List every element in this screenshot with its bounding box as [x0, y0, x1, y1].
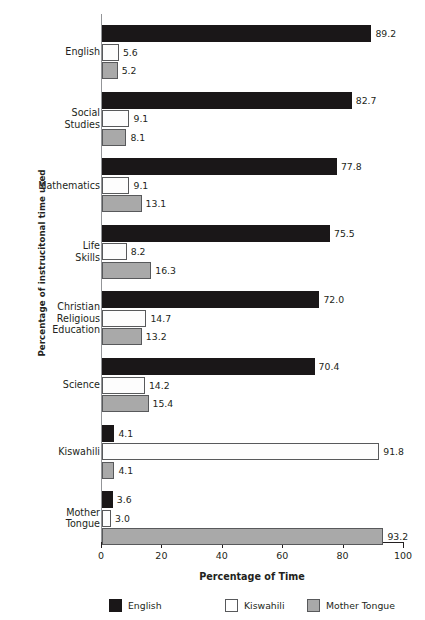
category-label-line: Christian: [4, 301, 100, 312]
bar: [102, 491, 113, 508]
bar: [102, 129, 126, 146]
category-label-line: Skills: [4, 252, 100, 263]
x-tick-label: 0: [98, 550, 104, 561]
bar-value-label: 4.1: [118, 462, 133, 479]
bar: [102, 443, 379, 460]
x-tick-label: 20: [155, 550, 167, 561]
bar: [102, 528, 383, 545]
category-label-line: Life: [4, 240, 100, 251]
category-label: SocialStudies: [4, 107, 100, 130]
category-label: Kiswahili: [4, 446, 100, 457]
bar: [102, 358, 315, 375]
bar-value-label: 89.2: [375, 25, 396, 42]
bar: [102, 110, 129, 127]
bar: [102, 395, 149, 412]
bar: [102, 510, 111, 527]
bar: [102, 462, 114, 479]
bar: [102, 262, 151, 279]
bar-value-label: 72.0: [323, 291, 344, 308]
chart-legend: EnglishKiswahiliMother Tongue: [0, 598, 425, 616]
category-label: English: [4, 46, 100, 57]
category-label-line: Education: [4, 324, 100, 335]
bar: [102, 25, 371, 42]
bar-value-label: 9.1: [133, 177, 148, 194]
bar-value-label: 14.7: [150, 310, 171, 327]
x-tick-label: 100: [394, 550, 412, 561]
bar-value-label: 4.1: [118, 425, 133, 442]
bar-value-label: 77.8: [341, 158, 362, 175]
bar-value-label: 15.4: [153, 395, 174, 412]
legend-label: English: [128, 598, 162, 614]
category-label: ChristianReligiousEducation: [4, 301, 100, 335]
category-label: Mathematics: [4, 180, 100, 191]
bar-value-label: 70.4: [319, 358, 340, 375]
bar-value-label: 75.5: [334, 225, 355, 242]
bar: [102, 225, 330, 242]
bar-value-label: 9.1: [133, 110, 148, 127]
x-tick-label: 80: [337, 550, 349, 561]
bar: [102, 243, 127, 260]
bar: [102, 310, 146, 327]
category-label-line: Tongue: [4, 518, 100, 529]
bar-value-label: 3.0: [115, 510, 130, 527]
bar: [102, 62, 118, 79]
bar: [102, 195, 142, 212]
bar-value-label: 93.2: [387, 528, 408, 545]
legend-swatch: [109, 599, 122, 612]
category-label: LifeSkills: [4, 240, 100, 263]
category-label-line: Mother: [4, 507, 100, 518]
category-label-line: Science: [4, 379, 100, 390]
x-tick-label: 40: [216, 550, 228, 561]
category-label: MotherTongue: [4, 507, 100, 530]
category-label-line: English: [4, 46, 100, 57]
bar-value-label: 5.2: [122, 62, 137, 79]
bar-value-label: 13.1: [146, 195, 167, 212]
x-axis-title: Percentage of Time: [101, 571, 403, 582]
bar-value-label: 82.7: [356, 92, 377, 109]
bar-value-label: 16.3: [155, 262, 176, 279]
bar: [102, 291, 319, 308]
bar: [102, 377, 145, 394]
bar-value-label: 91.8: [383, 443, 404, 460]
plot-area: 020406080100 89.25.65.282.79.18.177.89.1…: [101, 14, 403, 542]
bar: [102, 158, 337, 175]
category-label-line: Social: [4, 107, 100, 118]
bar: [102, 44, 119, 61]
bar: [102, 92, 352, 109]
bar-value-label: 5.6: [123, 44, 138, 61]
legend-swatch: [225, 599, 238, 612]
category-label: Science: [4, 379, 100, 390]
legend-label: Mother Tongue: [326, 598, 395, 614]
category-label-line: Kiswahili: [4, 446, 100, 457]
bar-value-label: 3.6: [117, 491, 132, 508]
bar: [102, 328, 142, 345]
bar: [102, 425, 114, 442]
category-label-line: Religious: [4, 313, 100, 324]
bar-chart: Percentage of instrucitonal time used 02…: [0, 0, 425, 620]
x-tick-label: 60: [276, 550, 288, 561]
bar-value-label: 8.1: [130, 129, 145, 146]
category-label-line: Studies: [4, 119, 100, 130]
bar-value-label: 14.2: [149, 377, 170, 394]
legend-swatch: [307, 599, 320, 612]
category-label-line: Mathematics: [4, 180, 100, 191]
bar-value-label: 8.2: [131, 243, 146, 260]
bar: [102, 177, 129, 194]
bar-value-label: 13.2: [146, 328, 167, 345]
legend-label: Kiswahili: [244, 598, 284, 614]
